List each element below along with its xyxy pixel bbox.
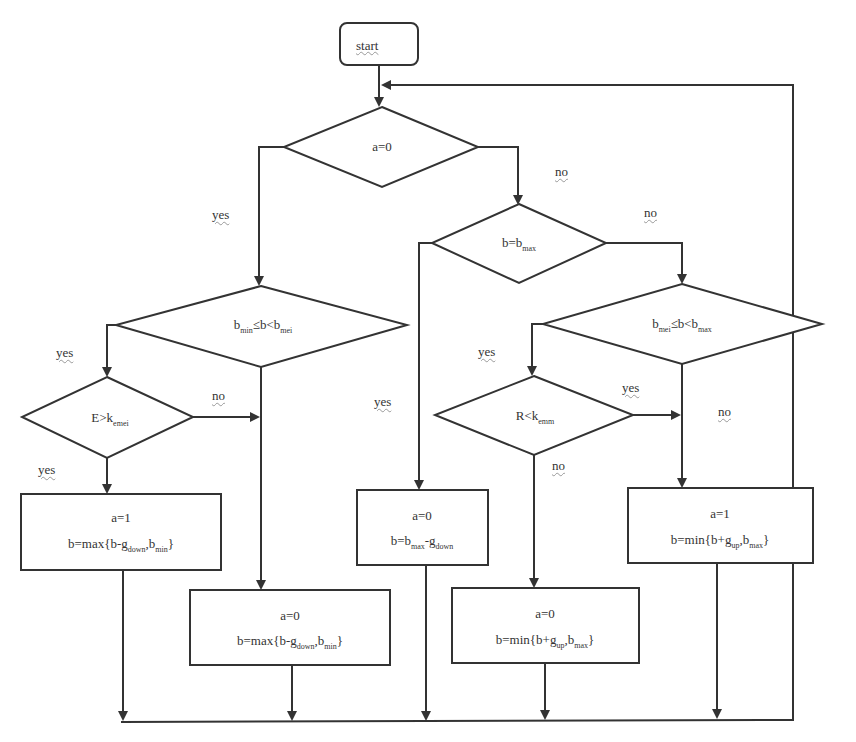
process-4-line2: b=min{b+gup,bmax} [496, 632, 594, 650]
process-box-3 [357, 490, 488, 565]
edge-d3-yes [107, 325, 116, 375]
process-5-line1: a=1 [710, 506, 730, 522]
start-label: start [356, 38, 378, 54]
process-2-line1: a=0 [280, 608, 300, 624]
edge-label-d2-no: no [644, 205, 657, 221]
process-1-line2: b=max{b-gdown,bmin} [68, 536, 174, 554]
decision-a-eq-0-text: a=0 [372, 139, 392, 155]
edge-label-d6-no: no [552, 458, 565, 474]
edge-label-d1-no: no [555, 164, 568, 180]
process-box-1 [21, 494, 221, 570]
edge-d1-no [478, 147, 518, 203]
edge-label-d6-yes: yes [622, 380, 639, 396]
decision-b-eq-bmax-text: b=bmax [502, 235, 536, 253]
decision-bmei-le-b-lt-bmax-text: bmei≤b<bmax [652, 316, 712, 334]
process-4-line1: a=0 [535, 606, 555, 622]
flowchart-canvas [0, 0, 856, 742]
edge-label-d3-no: no [212, 388, 225, 404]
start-terminator [339, 22, 419, 66]
edge-label-d1-yes: yes [212, 207, 229, 223]
process-5-line2: b=min{b+gup,bmax} [671, 532, 769, 550]
edge-d1-yes [259, 147, 284, 284]
edge-d2-yes [419, 243, 432, 488]
decision-e-gt-kemei-text: E>kemei [91, 410, 128, 428]
process-3-line2: b=bmax-gdown [391, 533, 454, 551]
edge-label-d5-yes: yes [38, 462, 55, 478]
edge-label-d2-yes: yes [374, 394, 391, 410]
process-2-line2: b=max{b-gdown,bmin} [237, 633, 343, 651]
process-box-5 [628, 488, 813, 563]
edge-label-d3-yes: yes [56, 345, 73, 361]
edge-label-d4-yes: yes [478, 344, 495, 360]
process-box-2 [190, 590, 390, 665]
edge-label-d4-no: no [718, 404, 731, 420]
decision-bmin-le-b-lt-bmei-text: bmin≤b<bmei [234, 317, 292, 335]
process-1-line1: a=1 [111, 510, 131, 526]
process-3-line1: a=0 [412, 508, 432, 524]
edge-d4-yes [532, 324, 543, 374]
decision-r-lt-kemm-text: R<kemm [516, 408, 555, 426]
edge-d2-no [606, 243, 682, 282]
process-box-4 [452, 588, 639, 663]
